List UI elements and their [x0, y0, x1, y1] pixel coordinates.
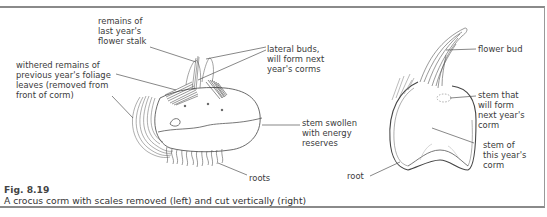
label-flower-bud: flower bud: [478, 44, 522, 54]
label-roots: roots: [249, 173, 270, 183]
next-year-stem-drawing: [437, 94, 451, 102]
figure-number: Fig. 8.19: [4, 184, 49, 195]
label-root: root: [347, 171, 364, 181]
label-stem-next-year: stem that will form next year's corm: [478, 90, 525, 130]
diagram-artwork: [0, 0, 547, 217]
corm-section-outline: [390, 82, 476, 170]
label-lateral-buds: lateral buds, will form next year's corm…: [267, 44, 324, 74]
label-stem-swollen: stem swollen with energy reserves: [302, 118, 357, 148]
label-flower-stalk-remains: remains of last year's flower stalk: [98, 16, 146, 46]
flower-stalk-drawing: [186, 56, 213, 90]
scale-fibres-drawing: [392, 74, 414, 100]
flower-bud-drawing: [420, 28, 467, 88]
figure-caption: A crocus corm with scales removed (left)…: [4, 195, 306, 206]
lateral-bud-right-drawing: [206, 80, 227, 99]
label-withered-foliage: withered remains of previous year's foli…: [16, 60, 111, 100]
label-stem-this-year: stem of this year's corm: [483, 140, 526, 170]
right-corm-illustration: [370, 28, 476, 176]
roots-drawing: [166, 147, 222, 167]
right-leader-lines: [370, 49, 476, 176]
corm-base-drawing: [408, 150, 468, 166]
